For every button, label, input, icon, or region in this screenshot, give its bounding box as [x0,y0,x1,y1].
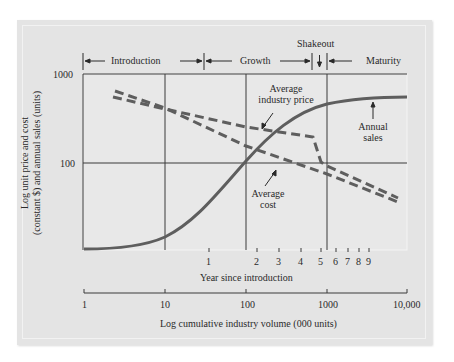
annotation-cost-line2: cost [246,199,290,210]
year-tick-5: 5 [318,256,323,267]
year-tick-3: 3 [276,256,281,267]
year-tick-8: 8 [356,256,361,267]
x-tick-1: 1 [82,299,87,310]
stage-label-growth: Growth [240,55,271,66]
year-tick-4: 4 [298,256,303,267]
year-tick-7: 7 [345,256,350,267]
x-tick-1000: 1000 [318,299,338,310]
y-axis-title: Log unit price and cost (constant $) and… [19,83,43,243]
year-tick-9: 9 [366,256,371,267]
annotation-sales-line2: sales [353,132,393,143]
y-tick-1000: 1000 [53,69,73,80]
annotation-annual-sales: Annual sales [353,121,393,143]
x-tick-100: 100 [240,299,255,310]
x-axis [84,289,407,293]
x-tick-10: 10 [160,299,170,310]
stage-label-introduction: Introduction [111,55,160,66]
annotation-sales-line1: Annual [353,121,393,132]
year-tick-2: 2 [254,256,259,267]
annotation-cost-line1: Average [246,188,290,199]
year-axis-title: Year since introduction [200,272,293,283]
x-tick-10000: 10,000 [393,299,421,310]
stage-label-shakeout: Shakeout [297,38,334,49]
annotation-average-cost: Average cost [246,188,290,210]
x-axis-title: Log cumulative industry volume (000 unit… [160,318,337,329]
annotation-price-line1: Average [248,83,324,94]
year-tick-1: 1 [206,256,211,267]
annotation-price-line2: industry price [248,94,324,105]
y-axis-title-line2: (constant $) and annual sales (units) [31,83,43,243]
annotation-average-industry-price: Average industry price [248,83,324,105]
stage-label-maturity: Maturity [366,55,401,66]
y-tick-100: 100 [60,158,75,169]
y-axis-title-line1: Log unit price and cost [19,83,31,243]
year-tick-6: 6 [333,256,338,267]
